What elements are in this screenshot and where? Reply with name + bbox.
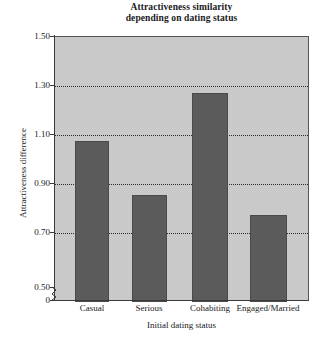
y-tick-mark-1-50 (50, 36, 55, 37)
y-axis-title: Attractiveness difference (18, 88, 28, 258)
y-tick-mark-1-30 (50, 85, 55, 86)
x-axis-line (54, 300, 309, 301)
y-tick-label-0-50: 0.50 (6, 283, 50, 292)
y-tick-mark-0-90 (50, 183, 55, 184)
gridline-1-10 (55, 135, 308, 136)
y-tick-label-0: 0 (6, 296, 50, 305)
chart-title-line-1: Attractiveness similarity (55, 2, 308, 13)
bar-engaged-married[interactable] (250, 215, 287, 302)
y-axis-line (54, 35, 55, 301)
y-tick-mark-1-10 (50, 134, 55, 135)
y-tick-label-0-90: 0.90 (6, 179, 50, 188)
x-tick-label-serious: Serious (136, 303, 163, 314)
y-tick-mark-0-70 (50, 232, 55, 233)
bar-serious[interactable] (132, 195, 167, 302)
x-tick-label-engaged-married: Engaged/Married (237, 303, 300, 314)
chart-figure: Attractiveness similarity depending on d… (0, 0, 322, 349)
bar-cohabiting[interactable] (192, 93, 228, 302)
bar-casual[interactable] (75, 141, 109, 302)
y-tick-label-1-50: 1.50 (6, 32, 50, 41)
y-tick-label-0-70: 0.70 (6, 228, 50, 237)
x-tick-label-casual: Casual (80, 303, 105, 314)
plot-area (55, 36, 309, 301)
y-tick-mark-0 (50, 300, 55, 301)
chart-title-line-2: depending on dating status (55, 13, 308, 24)
axis-break-icon (50, 286, 59, 300)
y-tick-label-1-30: 1.30 (6, 81, 50, 90)
chart-title: Attractiveness similarity depending on d… (55, 2, 308, 24)
x-axis-title: Initial dating status (55, 320, 308, 330)
gridline-1-30 (55, 86, 308, 87)
x-tick-label-cohabiting: Cohabiting (190, 303, 230, 314)
y-tick-label-1-10: 1.10 (6, 130, 50, 139)
